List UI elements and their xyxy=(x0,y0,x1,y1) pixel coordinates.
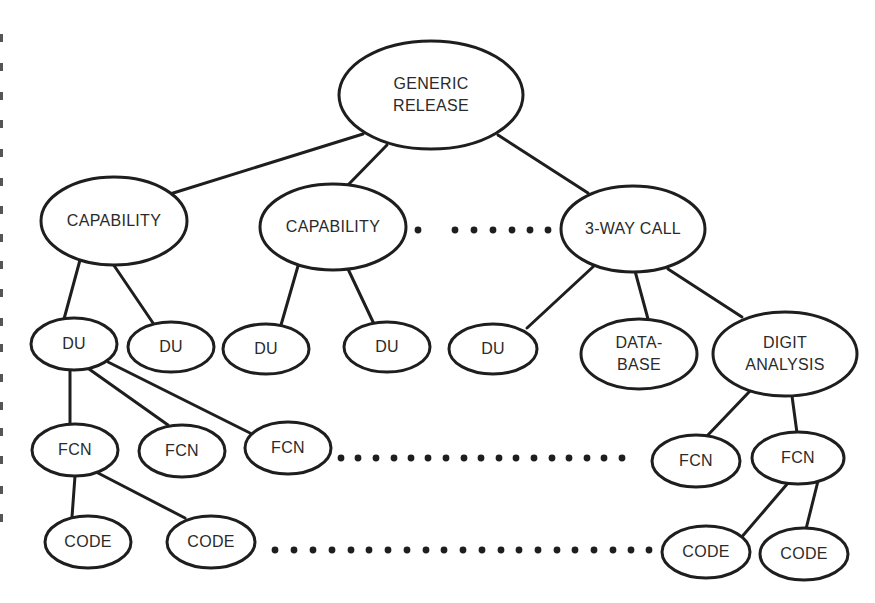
ellipsis-dot xyxy=(628,547,635,554)
node-du3: DU xyxy=(223,324,309,374)
ellipsis-dot xyxy=(566,455,573,462)
ellipsis-dot xyxy=(509,227,516,234)
node-du1: DU xyxy=(31,318,117,370)
node-code4: CODE xyxy=(760,528,848,580)
edge-fcn1-to-code1 xyxy=(72,476,75,517)
margin-mark xyxy=(0,486,3,494)
edge-generic-to-cap2 xyxy=(348,145,387,185)
ellipsis-dot xyxy=(461,455,468,462)
node-label: DIGIT xyxy=(763,334,807,351)
node-label: ANALYSIS xyxy=(745,356,824,373)
ellipsis-dot xyxy=(513,455,520,462)
node-generic: GENERICRELEASE xyxy=(339,41,523,149)
ellipsis-dot xyxy=(366,547,373,554)
ellipsis-dot xyxy=(291,547,298,554)
ellipsis-dot xyxy=(272,547,279,554)
edge-fcn5-to-code4 xyxy=(806,481,818,529)
node-cap2: CAPABILITY xyxy=(260,184,406,270)
node-fcn2: FCN xyxy=(139,425,225,477)
edge-cap2-to-du3 xyxy=(281,266,298,325)
node-label: CODE xyxy=(682,543,729,560)
ellipsis-dot xyxy=(460,547,467,554)
ellipsis-dot xyxy=(415,227,422,234)
margin-mark xyxy=(0,234,3,242)
node-label: CODE xyxy=(187,533,234,550)
node-label: GENERIC xyxy=(394,75,469,92)
node-label: FCN xyxy=(58,441,92,458)
node-du5: DU xyxy=(449,324,537,374)
ellipsis-dot xyxy=(391,455,398,462)
node-label: CODE xyxy=(64,533,111,550)
node-label: DU xyxy=(254,340,278,357)
node-fcn1: FCN xyxy=(32,424,118,476)
edge-cap2-to-du4 xyxy=(348,269,374,324)
margin-mark xyxy=(0,402,3,410)
edge-threeway-to-du5 xyxy=(527,265,595,328)
node-label: FCN xyxy=(781,449,815,466)
ellipsis-dot xyxy=(310,547,317,554)
ellipsis-dot xyxy=(423,547,430,554)
edge-cap1-to-du1 xyxy=(64,260,80,319)
ellipsis-dot xyxy=(471,227,478,234)
margin-mark xyxy=(0,456,3,464)
ellipsis-dot xyxy=(601,455,608,462)
margin-mark xyxy=(0,34,3,42)
margin-mark xyxy=(0,178,3,186)
margin-mark xyxy=(0,318,3,326)
ellipsis-dot xyxy=(572,547,579,554)
fcn-ellipsis xyxy=(338,455,626,462)
margin-mark xyxy=(0,63,3,71)
ellipsis-dot xyxy=(498,547,505,554)
ellipsis-dot xyxy=(619,455,626,462)
margin-mark xyxy=(0,514,3,522)
edge-digit-to-fcn4 xyxy=(707,391,750,436)
node-label: FCN xyxy=(679,452,713,469)
ellipsis-dot xyxy=(385,547,392,554)
edge-digit-to-fcn5 xyxy=(792,396,797,433)
edge-threeway-to-digit xyxy=(668,269,742,317)
edge-generic-to-threeway xyxy=(498,135,588,193)
ellipsis-dot xyxy=(452,227,459,234)
margin-mark xyxy=(0,289,3,297)
ellipsis-dot xyxy=(408,455,415,462)
node-label: FCN xyxy=(165,442,199,459)
ellipsis-dot xyxy=(554,547,561,554)
ellipsis-dot xyxy=(355,455,362,462)
ellipsis-dot xyxy=(478,455,485,462)
node-threeway: 3-WAY CALL xyxy=(561,186,705,272)
margin-mark xyxy=(0,374,3,382)
edge-threeway-to-database xyxy=(635,271,648,319)
margin-mark xyxy=(0,149,3,157)
node-ellipse xyxy=(713,312,857,396)
ellipsis-dot xyxy=(443,455,450,462)
ellipsis-dot xyxy=(516,547,523,554)
node-label: DU xyxy=(375,338,399,355)
ellipsis-dot xyxy=(425,455,432,462)
ellipsis-dot xyxy=(373,455,380,462)
node-label: CAPABILITY xyxy=(286,218,380,235)
left-margin-marks xyxy=(0,34,3,522)
node-cap1: CAPABILITY xyxy=(41,177,187,265)
node-database: DATA-BASE xyxy=(581,319,697,389)
level1-ellipsis xyxy=(415,227,552,234)
ellipsis-dot xyxy=(348,547,355,554)
node-label: 3-WAY CALL xyxy=(585,220,681,237)
margin-mark xyxy=(0,428,3,436)
hierarchy-diagram: GENERICRELEASECAPABILITYCAPABILITY3-WAY … xyxy=(0,0,875,603)
node-du4: DU xyxy=(344,322,430,372)
ellipsis-dot xyxy=(479,547,486,554)
node-label: DU xyxy=(159,338,183,355)
node-label: DU xyxy=(481,340,505,357)
margin-mark xyxy=(0,261,3,269)
node-ellipse xyxy=(581,319,697,389)
node-du2: DU xyxy=(128,322,214,372)
node-code3: CODE xyxy=(662,526,750,578)
edge-du1-to-fcn2 xyxy=(89,369,168,425)
ellipsis-dot xyxy=(490,227,497,234)
ellipsis-dot xyxy=(404,547,411,554)
ellipsis-dot xyxy=(549,455,556,462)
node-label: CAPABILITY xyxy=(67,212,161,229)
node-label: CODE xyxy=(780,545,827,562)
ellipsis-dot xyxy=(496,455,503,462)
ellipsis-dot xyxy=(441,547,448,554)
